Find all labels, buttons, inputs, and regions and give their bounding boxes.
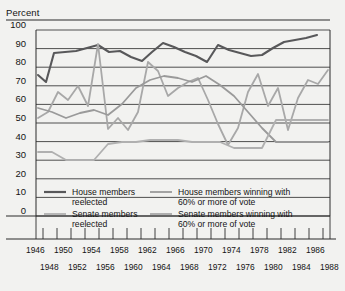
x-tick-label-1948: 1948 [40, 262, 59, 272]
x-tick-label-1962: 1962 [138, 245, 157, 255]
y-axis-title: Percent [6, 8, 39, 18]
x-tick-label-1978: 1978 [250, 245, 269, 255]
x-tick-label-1958: 1958 [110, 245, 129, 255]
y-tick-label-0: 0 [4, 205, 26, 216]
x-tick-label-1988: 1988 [320, 262, 339, 272]
x-tick-label-1972: 1972 [208, 262, 227, 272]
y-tick-label-40: 40 [4, 131, 26, 142]
y-tick-label-90: 90 [4, 38, 26, 49]
y-tick-label-100: 100 [4, 19, 26, 30]
legend-item-3[interactable]: Senate members winning with60% or more o… [178, 210, 293, 229]
x-tick-label-1984: 1984 [292, 262, 311, 272]
x-tick-label-1964: 1964 [152, 262, 171, 272]
x-tick-label-1986: 1986 [306, 245, 325, 255]
x-tick-label-1970: 1970 [194, 245, 213, 255]
legend-item-0[interactable]: House membersreelected [72, 188, 135, 207]
y-tick-label-50: 50 [4, 112, 26, 123]
y-tick-label-60: 60 [4, 93, 26, 104]
x-tick-label-1950: 1950 [54, 245, 73, 255]
legend-label-line2: reelected [72, 220, 137, 230]
x-tick-label-1974: 1974 [222, 245, 241, 255]
x-tick-label-1980: 1980 [264, 262, 283, 272]
x-tick-label-1956: 1956 [96, 262, 115, 272]
y-tick-label-30: 30 [4, 149, 26, 160]
x-tick-label-1976: 1976 [236, 262, 255, 272]
legend-item-1[interactable]: House members winning with60% or more of… [178, 188, 290, 207]
x-tick-label-1982: 1982 [278, 245, 297, 255]
x-tick-label-1952: 1952 [68, 262, 87, 272]
legend-item-2[interactable]: Senate membersreelected [72, 210, 137, 229]
y-tick-label-20: 20 [4, 168, 26, 179]
y-tick-label-10: 10 [4, 186, 26, 197]
y-tick-label-70: 70 [4, 75, 26, 86]
x-tick-label-1946: 1946 [26, 245, 45, 255]
legend-label-line2: 60% or more of vote [178, 198, 290, 208]
x-tick-label-1966: 1966 [166, 245, 185, 255]
y-tick-label-80: 80 [4, 56, 26, 67]
legend-label-line2: 60% or more of vote [178, 220, 293, 230]
x-tick-label-1968: 1968 [180, 262, 199, 272]
x-tick-label-1954: 1954 [82, 245, 101, 255]
legend-label-line2: reelected [72, 198, 135, 208]
x-tick-label-1960: 1960 [124, 262, 143, 272]
